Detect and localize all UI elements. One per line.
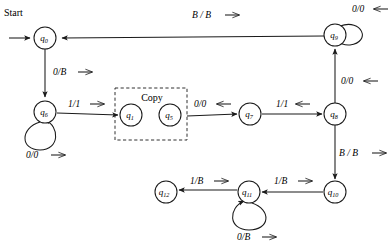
- edge-label-text: 0/B: [237, 232, 250, 242]
- edge-label-text: B / B: [192, 10, 211, 20]
- node-q6[interactable]: q6: [34, 101, 56, 123]
- edge-label-text: 1/1: [68, 99, 80, 109]
- node-q12-sub: 12: [163, 191, 169, 198]
- edge-label-1-over-1-mid: 1/1: [276, 99, 310, 109]
- transition-q5-to-q7: [187, 114, 237, 116]
- node-q5[interactable]: q5: [159, 104, 181, 126]
- edge-label-text: 0/0: [26, 150, 38, 160]
- edge-label-1-over-b-b: 1/B: [190, 176, 228, 186]
- edge-label-b-over-b-top: B / B: [192, 10, 239, 20]
- node-q0[interactable]: q0: [34, 27, 56, 49]
- node-q10-sub: 10: [332, 191, 339, 198]
- state-diagram: Copy: [0, 0, 392, 244]
- edge-label-0-over-0-right: 0/0: [341, 76, 378, 86]
- edge-label-text: 0/0: [352, 4, 364, 14]
- node-q9-sub: 9: [335, 34, 338, 41]
- node-q7[interactable]: q7: [239, 103, 261, 125]
- edge-label-0-over-b-loop: 0/B: [237, 232, 276, 242]
- edge-label-text: 0/B: [53, 67, 66, 77]
- node-q11-sub: 11: [246, 191, 252, 198]
- node-q9[interactable]: q9: [324, 24, 346, 46]
- transition-q6-to-q1: [57, 113, 118, 115]
- edge-label-text: 1/1: [276, 99, 288, 109]
- diagram-canvas: Copy: [0, 0, 392, 244]
- node-q1-sub: 1: [131, 114, 134, 121]
- edge-label-0-over-b-left: 0/B: [53, 67, 92, 77]
- node-q11[interactable]: q11: [238, 181, 260, 203]
- transition-q9-to-q0: [62, 36, 324, 38]
- node-q10[interactable]: q10: [324, 181, 346, 203]
- edge-label-text: B / B: [339, 148, 358, 158]
- node-q5-sub: 5: [170, 114, 173, 121]
- edge-label-1-over-1-left: 1/1: [68, 99, 104, 109]
- node-q1[interactable]: q1: [120, 104, 142, 126]
- node-q12[interactable]: q12: [155, 181, 177, 203]
- edge-label-text: 0/0: [341, 76, 353, 86]
- node-q8[interactable]: q8: [324, 103, 346, 125]
- edge-label-b-over-b-right: B / B: [339, 148, 386, 158]
- edge-label-text: 1/B: [190, 176, 203, 186]
- transition-q6-self: [25, 120, 56, 150]
- edge-label-0-over-0-mid: 0/0: [194, 99, 231, 109]
- edge-label-0-over-0-q6: 0/0: [26, 150, 65, 160]
- start-label: Start: [4, 7, 23, 18]
- copy-group-box-label: Copy: [141, 92, 163, 103]
- edge-label-text: 0/0: [194, 99, 206, 109]
- edge-label-0-over-0-topright: 0/0: [352, 4, 388, 14]
- transition-q11-self: [233, 201, 266, 230]
- edge-label-1-over-b-a: 1/B: [274, 176, 312, 186]
- edge-label-text: 1/B: [274, 176, 287, 186]
